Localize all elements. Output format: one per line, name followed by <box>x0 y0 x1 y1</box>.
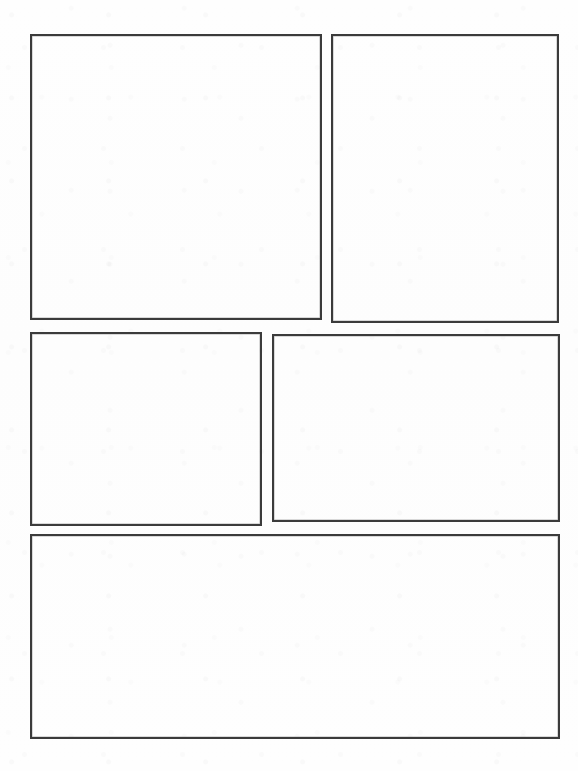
panel-2-interior <box>333 36 557 321</box>
comic-panel-2[interactable] <box>331 34 559 323</box>
comic-panel-1[interactable] <box>30 34 322 320</box>
panel-4-interior <box>274 336 558 520</box>
comic-panel-5[interactable] <box>30 534 560 739</box>
panel-3-interior <box>32 334 260 524</box>
comic-panel-4[interactable] <box>272 334 560 522</box>
comic-panel-3[interactable] <box>30 332 262 526</box>
panel-5-interior <box>32 536 558 737</box>
panel-1-interior <box>32 36 320 318</box>
comic-page <box>0 0 578 771</box>
